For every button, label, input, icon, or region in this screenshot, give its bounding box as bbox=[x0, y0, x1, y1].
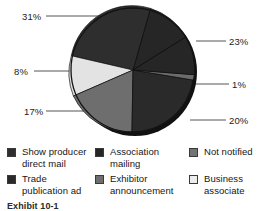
legend-label: Business associate bbox=[204, 173, 245, 196]
legend-label-line1: Show producer bbox=[22, 146, 87, 157]
legend-label: Show producer direct mail bbox=[22, 146, 87, 169]
legend-swatch-icon bbox=[95, 175, 104, 184]
legend-row: Trade publication ad Exhibitor announcem… bbox=[7, 173, 265, 198]
legend-label-line1: Association bbox=[110, 146, 159, 157]
figure-caption: Exhibit 10-1 bbox=[7, 201, 59, 211]
legend-swatch-icon bbox=[7, 175, 16, 184]
legend-item-exhibitor-announcement: Exhibitor announcement bbox=[95, 173, 189, 198]
legend-label-line2: announcement bbox=[110, 185, 173, 197]
legend-label: Not notified bbox=[204, 146, 253, 158]
legend-label-line1: Business bbox=[204, 173, 243, 184]
pie-slice-trade-publication-ad bbox=[132, 70, 193, 132]
legend-label: Trade publication ad bbox=[22, 173, 81, 196]
legend-label-line2: publication ad bbox=[22, 185, 81, 197]
legend-label-line1: Trade bbox=[22, 173, 47, 184]
legend-label-line1: Exhibitor bbox=[110, 173, 147, 184]
legend-item-association-mailing: Association mailing bbox=[95, 146, 189, 171]
legend-swatch-icon bbox=[7, 148, 16, 157]
pie-label-1-percent: 1% bbox=[232, 80, 246, 90]
legend-item-trade-publication-ad: Trade publication ad bbox=[7, 173, 95, 198]
legend-swatch-icon bbox=[189, 175, 198, 184]
legend-label-line2: associate bbox=[204, 185, 245, 197]
legend-label: Association mailing bbox=[110, 146, 159, 169]
legend-item-show-producer-direct-mail: Show producer direct mail bbox=[7, 146, 95, 171]
legend-label-line2: mailing bbox=[110, 158, 159, 170]
legend-swatch-icon bbox=[95, 148, 104, 157]
pie-chart-plot-area: 31% 8% 17% 23% 1% 20% bbox=[0, 0, 267, 142]
legend-label: Exhibitor announcement bbox=[110, 173, 173, 196]
pie-chart-figure: 31% 8% 17% 23% 1% 20% Show producer dire… bbox=[0, 0, 267, 211]
legend-item-business-associate: Business associate bbox=[189, 173, 263, 198]
pie-label-31-percent: 31% bbox=[22, 12, 41, 22]
legend-label-line1: Not notified bbox=[204, 146, 253, 157]
legend-item-not-notified: Not notified bbox=[189, 146, 263, 171]
pie-label-20-percent: 20% bbox=[229, 116, 248, 126]
pie-label-8-percent: 8% bbox=[14, 67, 28, 77]
pie-label-23-percent: 23% bbox=[229, 37, 248, 47]
pie-label-17-percent: 17% bbox=[24, 107, 43, 117]
legend-swatch-icon bbox=[189, 148, 198, 157]
chart-legend: Show producer direct mail Association ma… bbox=[7, 146, 265, 200]
legend-label-line2: direct mail bbox=[22, 158, 87, 170]
legend-row: Show producer direct mail Association ma… bbox=[7, 146, 265, 171]
